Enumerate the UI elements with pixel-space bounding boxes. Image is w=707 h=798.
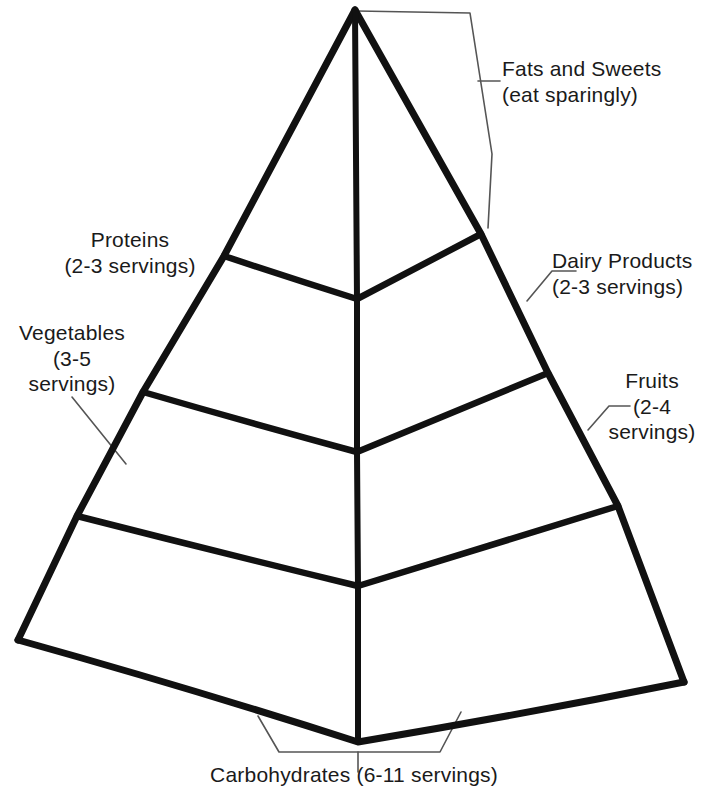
label-vegetables: Vegetables (3-5 servings) (4, 320, 140, 397)
label-fats-and-sweets: Fats and Sweets (eat sparingly) (502, 56, 702, 107)
pyramid-right-edge (355, 10, 684, 682)
pyramid-divider-2 (143, 373, 548, 452)
leader-vegetables-line (72, 397, 126, 464)
leader-lines-group (72, 11, 630, 772)
pyramid-center-ridge (355, 10, 358, 742)
pyramid-divider-1 (224, 234, 481, 299)
pyramid-base-edge (18, 640, 684, 742)
pyramid-divider-3 (77, 506, 618, 586)
label-dairy-products: Dairy Products (2-3 servings) (552, 248, 707, 299)
label-fruits: Fruits (2-4 servings) (600, 368, 704, 445)
food-pyramid-diagram: Fats and Sweets (eat sparingly) Proteins… (0, 0, 707, 798)
label-carbohydrates: Carbohydrates (6-11 servings) (154, 762, 554, 788)
label-proteins: Proteins (2-3 servings) (38, 227, 222, 278)
